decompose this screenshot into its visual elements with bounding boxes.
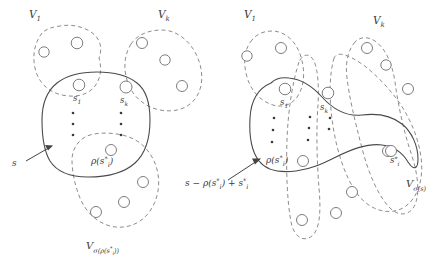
label-sk-left: sk [120, 95, 128, 107]
graph-node [119, 197, 130, 208]
right-panel: V1 Vk s1 sk ρ(s*i) s*i s − ρ(s*i) + s*i [185, 8, 427, 239]
label-vk-left: Vk [158, 8, 170, 23]
label-s-arrow-right: s − ρ(s*i) + s*i [185, 177, 248, 191]
graph-node-rho [298, 156, 309, 167]
graph-node [71, 37, 83, 49]
label-sstar-right: s*i [390, 155, 399, 167]
region-v1-left [34, 25, 101, 96]
graph-node [297, 215, 308, 226]
label-v1-right: V1 [244, 8, 256, 23]
vertical-dots-left [72, 112, 123, 137]
graph-node-s1 [279, 83, 291, 95]
graph-node [177, 81, 188, 92]
left-panel: V1 Vk s1 sk ρ(s*i) s Vσ(ρ(s*i)) [12, 8, 202, 256]
graph-node [91, 207, 102, 218]
label-vk-right: Vk [373, 14, 385, 29]
graph-node [160, 55, 170, 65]
graph-node-sk [120, 81, 132, 93]
label-vsigma-right: Vσ(s) [406, 178, 427, 193]
label-sk-right: sk [320, 102, 328, 114]
region-v1-right [245, 31, 304, 106]
figure-root: V1 Vk s1 sk ρ(s*i) s Vσ(ρ(s*i)) [0, 0, 445, 261]
graph-node [276, 43, 287, 54]
vertical-dots-right [271, 116, 332, 144]
graph-node [138, 177, 149, 188]
graph-node [347, 187, 358, 198]
label-rho-left: ρ(s*i) [90, 155, 114, 169]
graph-node [39, 47, 49, 57]
graph-node-rho [106, 145, 117, 156]
label-rho-right: ρ(s*i) [265, 154, 289, 168]
graph-node-s1 [73, 79, 85, 91]
label-s1-left: s1 [73, 93, 81, 105]
graph-node [137, 38, 148, 49]
label-v1-left: V1 [29, 8, 41, 23]
diagram-canvas: V1 Vk s1 sk ρ(s*i) s Vσ(ρ(s*i)) [0, 0, 445, 261]
label-s1-right: s1 [280, 97, 288, 109]
graph-node [381, 60, 391, 70]
label-vsigma-left: Vσ(ρ(s*i)) [86, 240, 120, 256]
graph-node-sk [322, 87, 334, 99]
label-s-arrow-left: s [12, 158, 17, 168]
graph-node [403, 84, 414, 95]
graph-node [331, 208, 342, 219]
graph-node [362, 43, 373, 54]
graph-node [242, 51, 252, 61]
